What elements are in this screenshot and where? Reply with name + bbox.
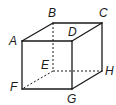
vertex-label-g: G — [67, 93, 76, 105]
vertex-label-c: C — [99, 7, 108, 19]
vertex-label-e: E — [41, 59, 49, 71]
cube-diagram: A B C D E F G H — [0, 0, 116, 105]
vertex-label-h: H — [105, 65, 114, 77]
vertex-label-a: A — [9, 35, 17, 47]
vertex-label-d: D — [68, 26, 77, 38]
edge-AB — [22, 23, 53, 41]
vertex-label-b: B — [48, 7, 56, 19]
edge-GH — [72, 71, 102, 89]
hidden-edge-EF — [22, 71, 53, 89]
vertex-label-f: F — [10, 81, 17, 93]
